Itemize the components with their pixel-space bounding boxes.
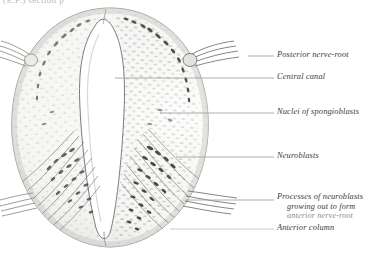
root-ganglion-swelling-right xyxy=(183,54,197,67)
label-processes-line-2: growing out to form xyxy=(287,202,355,211)
label-posterior-nerve-root: Posterior nerve-root xyxy=(277,50,349,59)
label-processes-line-1: Processes of neuroblasts xyxy=(277,192,363,201)
anatomical-plate: (E.F.) section p xyxy=(0,0,370,253)
label-processes-line-3: anterior nerve-root xyxy=(287,211,353,220)
label-neuroblasts: Neuroblasts xyxy=(277,151,319,160)
label-anterior-column: Anterior column xyxy=(277,223,334,232)
label-central-canal: Central canal xyxy=(277,72,325,81)
root-ganglion-swelling-left xyxy=(25,54,38,66)
label-nuclei-of-spongioblasts: Nuclei of spongioblasts xyxy=(277,107,359,116)
posterior-nerve-root-right xyxy=(183,41,239,67)
